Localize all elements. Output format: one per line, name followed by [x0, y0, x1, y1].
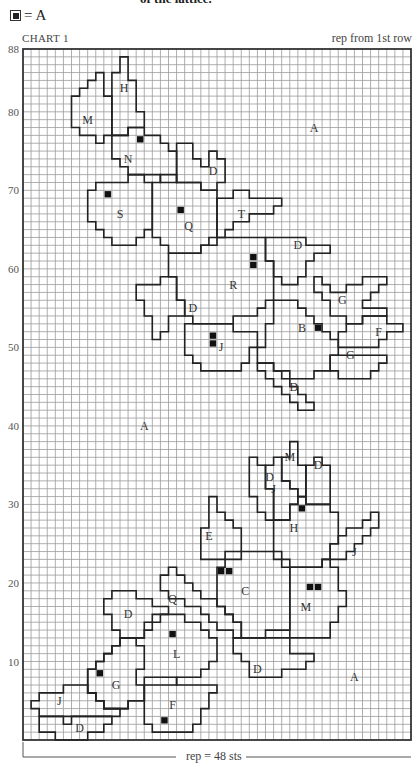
region-color-label: M	[82, 113, 93, 127]
region-color-label: M	[284, 450, 295, 464]
region-color-label: B	[298, 321, 306, 335]
region-color-label: D	[124, 607, 133, 621]
filled-square-a	[218, 568, 225, 574]
region-color-label: D	[253, 662, 262, 676]
filled-square-a	[299, 505, 306, 511]
filled-square-a	[307, 584, 314, 590]
row-number-label: 40	[8, 420, 20, 432]
region-color-label: D	[314, 458, 323, 472]
region-color-label: J	[57, 694, 62, 708]
region-color-label: J	[352, 545, 357, 559]
region-color-label: F	[375, 325, 382, 339]
region-color-label: S	[117, 207, 124, 221]
region-color-label: F	[169, 698, 176, 712]
filled-square-a	[250, 254, 257, 260]
row-number-label: 10	[8, 656, 20, 668]
row-number-label: 70	[8, 184, 20, 196]
filled-square-a	[161, 717, 168, 723]
region-color-label: D	[289, 380, 298, 394]
region-color-label: C	[241, 584, 249, 598]
motif-outline	[72, 73, 112, 144]
region-color-label: Q	[184, 219, 193, 233]
region-color-label: D	[209, 164, 218, 178]
filled-square-a	[210, 340, 217, 346]
repeat-width-label: rep = 48 sts	[182, 749, 246, 764]
filled-square-a	[169, 631, 176, 637]
filled-square-a	[226, 568, 233, 574]
region-color-label: A	[350, 670, 359, 684]
region-color-label: M	[301, 600, 312, 614]
region-color-label: D	[75, 721, 84, 735]
row-number-label: 80	[8, 106, 20, 118]
region-color-label: Q	[168, 592, 177, 606]
region-color-label: G	[346, 348, 355, 362]
region-color-label: D	[293, 238, 302, 252]
region-color-label: R	[229, 278, 237, 292]
region-color-label: N	[124, 152, 133, 166]
row-number-label: 20	[8, 577, 20, 589]
filled-square-a	[250, 262, 257, 268]
region-color-label: G	[112, 678, 121, 692]
region-color-label: A	[310, 121, 319, 135]
row-number-label: 60	[8, 263, 20, 275]
region-color-label: J	[219, 340, 224, 354]
region-color-label: D	[188, 301, 197, 315]
filled-square-a	[210, 333, 217, 339]
filled-square-a	[177, 207, 184, 213]
region-color-label: T	[238, 207, 246, 221]
row-number-label: 88	[8, 43, 20, 55]
filled-square-a	[97, 670, 104, 676]
region-color-label: A	[140, 419, 149, 433]
region-color-label: H	[289, 521, 298, 535]
region-color-label: L	[173, 647, 180, 661]
filled-square-a	[315, 584, 322, 590]
filled-square-a	[105, 191, 112, 197]
region-color-label: J	[271, 482, 276, 496]
region-color-label: H	[120, 81, 129, 95]
row-number-label: 50	[8, 341, 20, 353]
row-number-label: 30	[8, 498, 20, 510]
motif-outline	[217, 552, 290, 638]
filled-square-a	[137, 136, 144, 142]
region-color-label: G	[338, 293, 347, 307]
region-color-label: E	[205, 529, 212, 543]
filled-square-a	[315, 325, 322, 331]
